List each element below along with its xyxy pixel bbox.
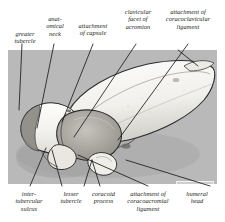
label-line: head [179, 197, 215, 204]
label-line: coracoid [87, 190, 120, 197]
label-humeral-head: humeral head [179, 190, 215, 205]
label-attachment-of-coracoclavicular-ligament: attachment of coracoclavicular ligament [155, 8, 221, 30]
label-line: clavicular [118, 8, 158, 15]
label-anatomical-neck: anat- omical neck [38, 15, 72, 37]
label-attachment-of-coracoacromial-ligament: attachment of coracoacromial ligament [120, 190, 176, 212]
label-line: process [87, 197, 120, 204]
label-line: coracoclavicular [155, 15, 221, 22]
label-line: coracoacromial [120, 197, 176, 204]
label-line: facet of [118, 15, 158, 22]
label-line: neck [38, 30, 72, 37]
label-line: tubercular [5, 197, 53, 204]
label-line: anat- [38, 15, 72, 22]
label-line: attachment of [155, 8, 221, 15]
label-line: inter- [5, 190, 53, 197]
label-line: of capsule [70, 29, 116, 36]
label-line: omical [38, 22, 72, 29]
label-lesser-tubercle: lesser tubercle [55, 190, 87, 205]
anatomy-figure: greater tubercle anat- omical neck attac… [0, 0, 225, 222]
label-coracoid-process: coracoid process [87, 190, 120, 205]
label-line: tubercle [4, 37, 46, 44]
label-clavicular-facet-of-acromion: clavicular facet of acromion [118, 8, 158, 30]
label-line: sulcus [5, 205, 53, 212]
compass-label-posterior: P [176, 183, 214, 185]
label-line: ligament [155, 23, 221, 30]
orientation-compass: P A la m [176, 181, 214, 184]
specimen-photograph: P A la m [8, 50, 217, 184]
label-line: ligament [120, 205, 176, 212]
label-line: lesser [55, 190, 87, 197]
label-attachment-of-capsule: attachment of capsule [70, 22, 116, 37]
coracoclavicular-attachment-mark [173, 78, 180, 82]
label-line: acromion [118, 23, 158, 30]
label-line: attachment [70, 22, 116, 29]
label-line: attachment of [120, 190, 176, 197]
label-line: humeral [179, 190, 215, 197]
coracoacromial-attachment-mark [122, 143, 131, 148]
bone-illustration [8, 50, 217, 184]
capsule-attachment-mark [67, 110, 71, 113]
label-line: tubercle [55, 197, 87, 204]
label-intertubercular-sulcus: inter- tubercular sulcus [5, 190, 53, 212]
